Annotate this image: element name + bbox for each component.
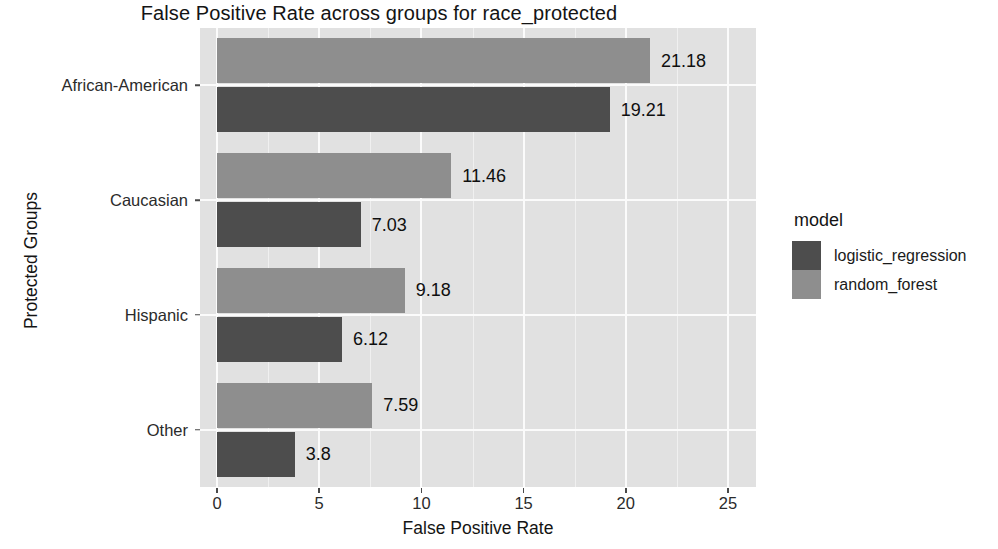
y-axis-tick-mark bbox=[195, 314, 200, 316]
bar-random-forest bbox=[217, 383, 372, 428]
y-axis-tick-label: Other bbox=[0, 420, 188, 439]
legend-swatch-icon bbox=[792, 241, 821, 270]
gridline-horizontal bbox=[200, 314, 756, 316]
y-axis-tick-mark bbox=[195, 199, 200, 201]
x-axis-tick-label: 10 bbox=[412, 494, 430, 513]
bar-value-label: 9.18 bbox=[416, 281, 451, 299]
x-axis-title: False Positive Rate bbox=[200, 518, 756, 539]
y-axis-tick-label: African-American bbox=[0, 76, 188, 95]
gridline-vertical bbox=[727, 28, 729, 487]
plot-panel: 21.1819.2111.467.039.186.127.593.8 bbox=[200, 28, 756, 487]
bar-value-label: 19.21 bbox=[621, 101, 666, 119]
bar-logistic-regression bbox=[217, 202, 361, 247]
gridline-horizontal bbox=[200, 84, 756, 86]
bar-random-forest bbox=[217, 268, 405, 313]
x-axis-tick-mark bbox=[625, 488, 627, 493]
x-axis-tick-mark bbox=[421, 488, 423, 493]
chart-container: False Positive Rate across groups for ra… bbox=[0, 0, 998, 549]
legend-item-label: logistic_regression bbox=[834, 247, 967, 265]
x-axis-tick-label: 25 bbox=[719, 494, 737, 513]
bar-value-label: 7.59 bbox=[383, 396, 418, 414]
x-axis-tick-mark bbox=[318, 488, 320, 493]
bar-value-label: 11.46 bbox=[462, 167, 506, 185]
gridline-horizontal bbox=[200, 429, 756, 431]
bar-random-forest bbox=[217, 153, 451, 198]
gridline-vertical-minor bbox=[677, 28, 678, 487]
bar-random-forest bbox=[217, 38, 650, 83]
legend-item[interactable]: random_forest bbox=[792, 270, 967, 299]
legend-item[interactable]: logistic_regression bbox=[792, 241, 967, 270]
bar-value-label: 21.18 bbox=[661, 52, 706, 70]
x-axis-tick-mark bbox=[727, 488, 729, 493]
bar-value-label: 7.03 bbox=[372, 216, 407, 234]
y-axis-tick-mark bbox=[195, 85, 200, 87]
bar-logistic-regression bbox=[217, 87, 610, 132]
bar-value-label: 3.8 bbox=[306, 445, 331, 463]
y-axis-tick-mark bbox=[195, 429, 200, 431]
y-axis-tick-label: Hispanic bbox=[0, 305, 188, 324]
x-axis-tick-label: 15 bbox=[514, 494, 532, 513]
x-axis-tick-label: 20 bbox=[617, 494, 635, 513]
legend-swatch-icon bbox=[792, 270, 821, 299]
legend-items: logistic_regressionrandom_forest bbox=[792, 241, 967, 299]
y-axis-tick-label: Caucasian bbox=[0, 191, 188, 210]
x-axis-tick-mark bbox=[523, 488, 525, 493]
bar-logistic-regression bbox=[217, 317, 342, 362]
legend-title: model bbox=[794, 210, 967, 231]
bar-value-label: 6.12 bbox=[353, 330, 388, 348]
x-axis-tick-mark bbox=[216, 488, 218, 493]
legend-item-label: random_forest bbox=[834, 276, 937, 294]
x-axis-tick-label: 0 bbox=[212, 494, 221, 513]
bar-logistic-regression bbox=[217, 432, 295, 477]
gridline-horizontal bbox=[200, 199, 756, 201]
x-axis-tick-label: 5 bbox=[315, 494, 324, 513]
gridline-vertical bbox=[625, 28, 627, 487]
chart-title: False Positive Rate across groups for ra… bbox=[0, 2, 758, 25]
legend: model logistic_regressionrandom_forest bbox=[792, 210, 967, 299]
